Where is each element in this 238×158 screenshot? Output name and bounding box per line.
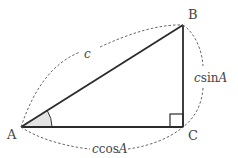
right-triangle-diagram: A B C c csinA ccosA [0,0,238,158]
right-angle-marker [170,114,183,127]
diagram-svg: A B C c csinA ccosA [0,0,238,158]
ccosa-func: cos [99,142,119,156]
ccosa-var: A [118,142,128,156]
vertex-b-label: B [188,7,198,22]
side-ab-hypotenuse [21,25,183,127]
side-csina-label: csinA [194,71,227,85]
side-ccosa-label: ccosA [92,142,128,156]
csina-var: A [217,71,227,85]
csina-func: sin [201,71,219,85]
vertex-a-label: A [6,127,17,142]
vertex-c-label: C [188,128,198,143]
side-c-label: c [84,47,91,61]
